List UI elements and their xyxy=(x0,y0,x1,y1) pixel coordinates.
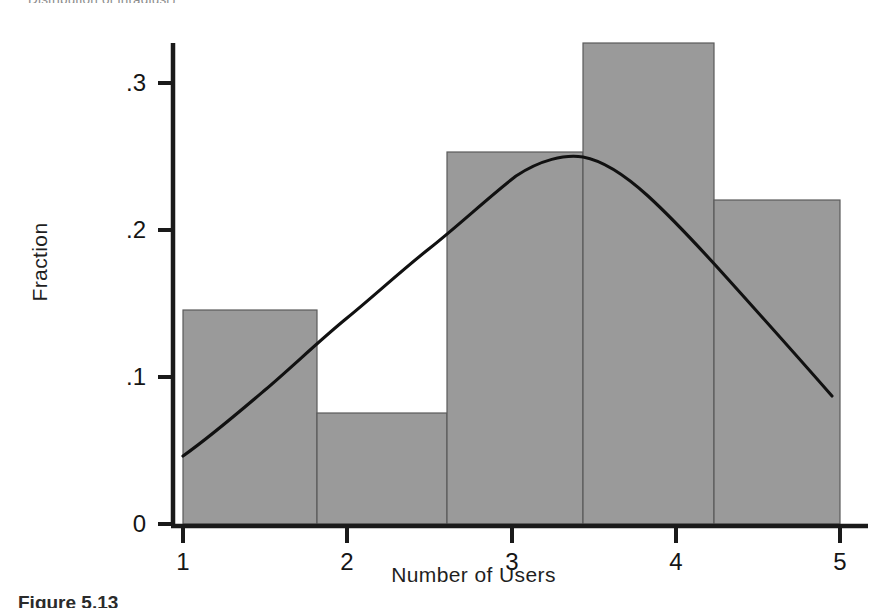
histogram-bar xyxy=(447,152,583,524)
histogram-bar xyxy=(183,310,317,524)
figure-caption: Figure 5.13 xyxy=(18,592,118,608)
y-tick-label: .2 xyxy=(100,218,146,242)
histogram-bar xyxy=(714,200,840,524)
x-axis-title: Number of Users xyxy=(0,563,887,587)
x-tick-marks xyxy=(183,526,840,543)
figure-root: Distribution of ln(adjusr) xyxy=(0,0,887,608)
y-tick-label: 0 xyxy=(100,512,146,536)
bar-series xyxy=(183,43,840,524)
y-tick-label: .1 xyxy=(100,365,146,389)
y-tick-label: .3 xyxy=(100,71,146,95)
y-axis-title: Fraction xyxy=(28,202,52,322)
histogram-bar xyxy=(317,413,447,524)
histogram-bar xyxy=(583,43,714,524)
